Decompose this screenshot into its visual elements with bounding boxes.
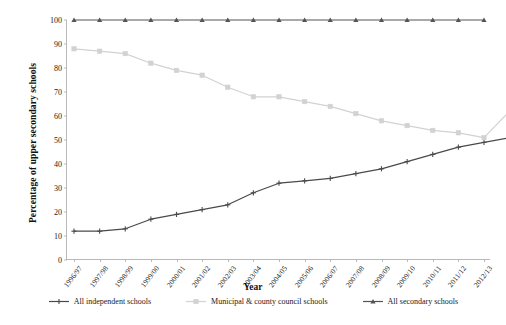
y-axis-tick-mark [64,44,67,45]
legend-item[interactable]: All independent schools [48,297,151,306]
x-axis-tick-mark [151,259,152,262]
y-axis-tick-mark [64,116,67,117]
legend-item-label: All independent schools [74,297,151,306]
legend-swatch-plus-icon [48,297,70,306]
data-point-marker [482,135,486,139]
data-point-marker [430,152,435,157]
data-point-marker [405,159,410,164]
y-axis-tick-label: 100 [50,16,62,25]
x-axis-tick-mark [202,259,203,262]
y-axis-tick-mark [64,164,67,165]
y-axis-tick-mark [64,236,67,237]
chart-figure: Percentage of upper secondary schools 01… [0,0,506,325]
y-axis-tick-mark [64,188,67,189]
x-axis-tick-mark [125,259,126,262]
x-axis-tick-mark [279,259,280,262]
x-axis-tick-mark [382,259,383,262]
data-point-marker [251,190,256,195]
series-all-secondary-schools [71,17,486,22]
data-point-marker [71,229,76,234]
y-axis-tick-label: 10 [54,232,62,241]
x-axis-tick-mark [228,259,229,262]
y-axis-tick-label: 90 [54,40,62,49]
legend-swatch-triangle-icon [362,297,384,306]
data-point-marker [277,95,281,99]
x-axis-tick-mark [407,259,408,262]
series-municipal-county-council-schools [72,47,506,140]
y-axis-tick-label: 40 [54,160,62,169]
data-point-marker [251,95,255,99]
data-point-marker [481,140,486,145]
y-axis-tick-mark [64,260,67,261]
y-axis-tick-label: 20 [54,208,62,217]
data-point-marker [353,171,358,176]
data-point-marker [123,226,128,231]
y-axis-tick-label: 80 [54,64,62,73]
data-point-marker [302,99,306,103]
data-point-marker [456,131,460,135]
data-point-marker [72,47,76,51]
legend-item[interactable]: Municipal & county council schools [185,297,327,306]
data-point-marker [379,119,383,123]
x-axis-tick-mark [330,259,331,262]
data-point-marker [123,51,127,55]
data-point-marker [149,61,153,65]
x-axis-tick-mark [356,259,357,262]
x-axis-tick-mark [253,259,254,262]
y-axis-tick-label: 30 [54,184,62,193]
data-point-marker [97,49,101,53]
y-axis-tick-mark [64,212,67,213]
y-axis-tick-mark [64,68,67,69]
y-axis-tick-label: 0 [58,256,62,265]
y-axis-tick-mark [64,20,67,21]
data-point-marker [431,128,435,132]
x-axis-tick-mark [458,259,459,262]
plot-area: 01020304050607080901001996/971997/981998… [66,20,490,260]
y-axis-tick-label: 50 [54,136,62,145]
y-axis-tick-label: 70 [54,88,62,97]
x-axis-tick-mark [305,259,306,262]
data-point-marker [226,85,230,89]
x-axis-title: Year [0,282,506,292]
series-layer [67,20,491,260]
data-point-marker [200,73,204,77]
data-point-marker [174,68,178,72]
legend-swatch-square-icon [185,297,207,306]
legend-item-label: Municipal & county council schools [211,297,327,306]
y-axis-tick-label: 60 [54,112,62,121]
x-axis-tick-mark [484,259,485,262]
series-all-independent-schools [71,135,506,234]
data-point-marker [405,123,409,127]
data-point-marker [456,145,461,150]
data-point-marker [379,166,384,171]
data-point-marker [225,202,230,207]
y-axis-tick-mark [64,140,67,141]
data-point-marker [354,111,358,115]
data-point-marker [302,178,307,183]
legend-item[interactable]: All secondary schools [362,297,459,306]
data-point-marker [97,229,102,234]
data-point-marker [276,181,281,186]
data-point-marker [200,207,205,212]
chart-legend: All independent schoolsMunicipal & count… [0,297,506,306]
data-point-marker [194,299,198,303]
y-axis-tick-mark [64,92,67,93]
data-point-marker [56,299,61,304]
y-axis-title: Percentage of upper secondary schools [28,18,38,268]
x-axis-tick-mark [100,259,101,262]
legend-item-label: All secondary schools [388,297,459,306]
data-point-marker [148,217,153,222]
x-axis-tick-mark [433,259,434,262]
data-point-marker [328,104,332,108]
data-point-marker [174,212,179,217]
data-point-marker [328,176,333,181]
x-axis-tick-mark [74,259,75,262]
x-axis-tick-mark [177,259,178,262]
